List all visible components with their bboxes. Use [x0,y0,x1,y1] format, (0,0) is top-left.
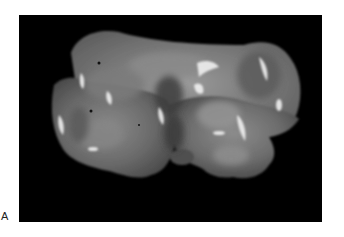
panel-label: A [1,211,8,222]
specimen-image [19,15,322,222]
specimen-photo [19,15,322,222]
figure: A [0,0,344,237]
